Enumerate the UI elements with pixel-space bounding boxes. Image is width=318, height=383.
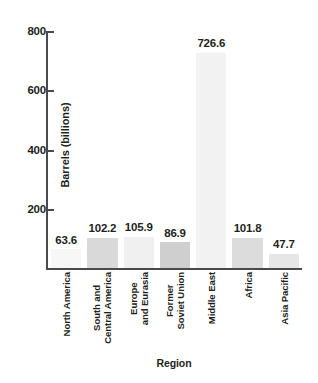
bar-slot: 86.9: [157, 31, 193, 268]
category-label: Africa: [242, 272, 253, 299]
bar[interactable]: [269, 254, 299, 268]
category-label: FormerSoviet Union: [164, 272, 186, 329]
category-axis-labels: North AmericaSouth andCentral AmericaEur…: [48, 272, 302, 350]
bar-chart: 800 600 400 200 Barrels (billions) 63.61…: [0, 0, 318, 383]
category-label-slot: FormerSoviet Union: [157, 272, 193, 350]
category-label-slot: Europeand Eurasia: [121, 272, 157, 350]
category-label-slot: Africa: [229, 272, 265, 350]
bar-slot: 101.8: [229, 31, 265, 268]
category-label-slot: Middle East: [193, 272, 229, 350]
y-tick-label-600: 600: [12, 85, 46, 97]
category-label: Europeand Eurasia: [128, 272, 150, 325]
bar-slot: 47.7: [266, 31, 302, 268]
y-tick-label-400: 400: [12, 145, 46, 157]
bar-value-label: 86.9: [157, 228, 193, 240]
bar-slot: 63.6: [48, 31, 84, 268]
x-axis-title: Region: [46, 357, 302, 369]
bar-value-label: 102.2: [84, 223, 120, 235]
bar-value-label: 105.9: [121, 222, 157, 234]
y-tick-label-200: 200: [12, 204, 46, 216]
category-label-slot: South andCentral America: [84, 272, 120, 350]
category-label: Middle East: [206, 272, 217, 324]
bar-value-label: 101.8: [229, 223, 265, 235]
bar[interactable]: [232, 238, 262, 268]
bar-value-label: 47.7: [266, 239, 302, 251]
category-label: North America: [61, 272, 72, 336]
bar[interactable]: [87, 238, 117, 268]
category-label: South andCentral America: [91, 272, 113, 344]
bar[interactable]: [51, 249, 81, 268]
x-axis-line: [46, 268, 302, 270]
bar-value-label: 726.6: [193, 38, 229, 50]
bar[interactable]: [124, 237, 154, 268]
bar-slot: 726.6: [193, 31, 229, 268]
bar[interactable]: [196, 53, 226, 268]
bar-value-label: 63.6: [48, 235, 84, 247]
y-tick-label-800: 800: [12, 26, 46, 38]
bar-slot: 102.2: [84, 31, 120, 268]
bar[interactable]: [160, 242, 190, 268]
bar-slot: 105.9: [121, 31, 157, 268]
category-label: Asia Pacific: [278, 272, 289, 325]
plot-area: 63.6102.2105.986.9726.6101.847.7: [48, 31, 302, 268]
category-label-slot: North America: [48, 272, 84, 350]
category-label-slot: Asia Pacific: [266, 272, 302, 350]
